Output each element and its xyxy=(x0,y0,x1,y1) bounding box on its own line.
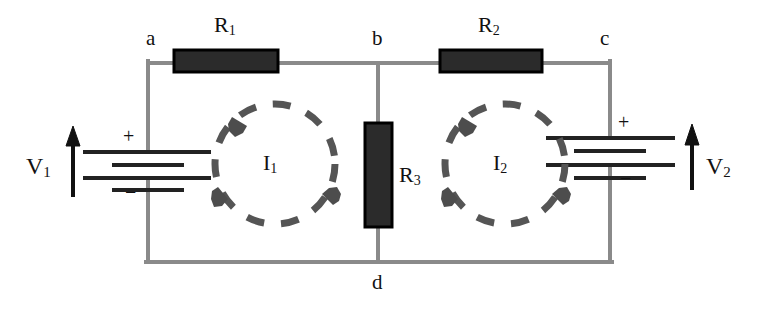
resistor-label-R2-base: R xyxy=(478,12,493,37)
v2-voltage-arrow xyxy=(685,124,699,190)
resistor-label-R1-base: R xyxy=(214,12,229,37)
resistor-R1-body xyxy=(174,50,278,72)
resistor-R2 xyxy=(440,50,542,72)
source-label-V2: V2 xyxy=(706,154,731,180)
mesh-current-label-I1: I1 xyxy=(263,152,277,176)
v1-minus-sign: − xyxy=(125,182,136,202)
resistor-label-R1-sub: 1 xyxy=(229,23,236,38)
resistor-R3-body xyxy=(365,123,392,227)
source-label-V1-sub: 1 xyxy=(43,164,51,180)
mesh-current-label-I2: I2 xyxy=(493,152,507,176)
mesh-current-label-I2-sub: 2 xyxy=(500,161,507,176)
v2-plus-sign: + xyxy=(618,112,629,132)
v2-minus-sign: − xyxy=(620,168,631,188)
node-label-b: b xyxy=(372,28,383,49)
resistor-label-R3-base: R xyxy=(399,162,414,187)
source-label-V1-base: V xyxy=(26,153,43,179)
source-label-V1: V1 xyxy=(26,154,51,180)
v1-plus-sign: + xyxy=(123,126,134,146)
node-label-c: c xyxy=(600,28,609,49)
resistor-label-R1: R1 xyxy=(214,14,236,38)
v1-voltage-arrow xyxy=(66,126,80,197)
circuit-diagram: a b c d R1 R2 R3 V1 V2 + − + − I1 I2 xyxy=(0,0,762,316)
resistor-label-R3: R3 xyxy=(399,164,421,188)
mesh-loop-I2-arrowhead-upper-left xyxy=(458,117,477,137)
mesh-current-label-I1-sub: 1 xyxy=(270,161,277,176)
v2-arrow-head xyxy=(685,124,699,145)
resistor-R2-body xyxy=(440,50,542,72)
resistor-label-R2-sub: 2 xyxy=(493,23,500,38)
mesh-loop-I1-arrowhead-upper-left xyxy=(228,117,247,137)
mesh-loop-I2-arrowhead-lower-left xyxy=(441,187,458,207)
v1-arrow-head xyxy=(66,126,80,146)
node-label-a: a xyxy=(146,28,155,49)
node-label-d: d xyxy=(372,272,383,293)
resistor-R3 xyxy=(365,123,392,227)
mesh-loop-I1-arrowhead-lower-left xyxy=(211,187,228,207)
resistor-R1 xyxy=(174,50,278,72)
resistor-label-R2: R2 xyxy=(478,14,500,38)
source-label-V2-base: V xyxy=(706,153,723,179)
source-label-V2-sub: 2 xyxy=(723,164,731,180)
resistor-label-R3-sub: 3 xyxy=(414,173,421,188)
